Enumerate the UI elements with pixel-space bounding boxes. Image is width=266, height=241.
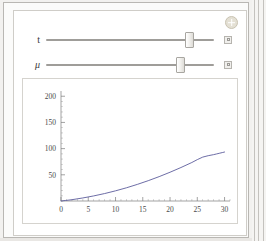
x-tick-label: 30 xyxy=(221,205,229,214)
gutter-divider-3 xyxy=(263,0,264,241)
y-tick-label: 50 xyxy=(49,171,57,180)
animate-square-icon-mu[interactable] xyxy=(224,61,232,69)
gutter-divider-2 xyxy=(258,0,259,241)
slider-row-mu: μ xyxy=(14,52,248,77)
slider-handle-mu[interactable] xyxy=(176,57,185,73)
plot-panel: 05101520253050100150200 xyxy=(22,78,238,224)
slider-track-t[interactable] xyxy=(46,30,214,50)
x-tick-label: 20 xyxy=(166,205,174,214)
y-tick-label: 100 xyxy=(45,144,57,153)
manipulate-panel: t μ 0510152025305010 xyxy=(13,10,247,236)
slider-track-mu[interactable] xyxy=(46,55,214,75)
outer-frame: t μ 0510152025305010 xyxy=(3,2,249,238)
y-tick-label: 150 xyxy=(45,118,57,127)
slider-controls-group: t μ xyxy=(14,27,248,77)
gutter-divider-1 xyxy=(254,0,255,241)
manipulate-window: t μ 0510152025305010 xyxy=(0,0,266,241)
x-tick-label: 25 xyxy=(194,205,202,214)
x-tick-label: 0 xyxy=(59,205,63,214)
slider-label-t: t xyxy=(14,35,46,45)
right-gutter xyxy=(252,0,266,241)
x-tick-label: 15 xyxy=(139,205,147,214)
y-tick-label: 200 xyxy=(45,92,57,101)
slider-label-mu: μ xyxy=(14,60,46,70)
line-chart: 05101520253050100150200 xyxy=(23,79,239,225)
slider-track-line-mu xyxy=(46,64,214,66)
x-tick-label: 5 xyxy=(86,205,90,214)
x-tick-label: 10 xyxy=(112,205,120,214)
chart-line-curve xyxy=(61,152,225,201)
slider-handle-t[interactable] xyxy=(185,32,194,48)
slider-row-t: t xyxy=(14,27,248,52)
animate-square-icon-t[interactable] xyxy=(224,36,232,44)
